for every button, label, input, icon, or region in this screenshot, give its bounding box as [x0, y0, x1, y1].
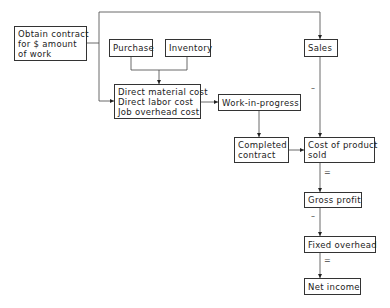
node-inventory: Inventory: [165, 39, 211, 57]
node-text: Gross profit: [308, 195, 358, 205]
node-text: Work-in-progress: [222, 98, 297, 108]
operator-equals-cost: =: [324, 168, 331, 177]
node-text: contract: [238, 150, 285, 160]
node-purchase: Purchase: [109, 39, 153, 57]
node-fixed-overhead: Fixed overhead: [304, 236, 376, 253]
node-text: Completed: [238, 140, 285, 150]
node-net-income: Net income: [304, 278, 361, 295]
node-gross-profit: Gross profit: [304, 192, 362, 208]
node-text: Direct labor cost: [118, 97, 197, 107]
operator-equals-fixed: =: [324, 256, 331, 265]
node-text: Purchase: [113, 43, 149, 53]
node-text: Inventory: [169, 43, 207, 53]
node-sales: Sales: [304, 39, 338, 57]
node-text: Obtain contract: [18, 29, 83, 39]
node-text: Direct material cost: [118, 87, 197, 97]
node-text: sold: [308, 150, 371, 160]
node-text: Sales: [308, 43, 334, 53]
node-text: Cost of product: [308, 140, 371, 150]
node-text: Net income: [308, 282, 357, 292]
node-text: for $ amount: [18, 39, 83, 49]
operator-minus-gross: –: [311, 212, 315, 221]
node-text: of work: [18, 49, 83, 59]
node-text: Fixed overhead: [308, 240, 372, 250]
node-cost-of-product-sold: Cost of product sold: [304, 137, 375, 163]
node-work-in-progress: Work-in-progress: [218, 94, 301, 111]
node-completed-contract: Completed contract: [234, 137, 289, 163]
operator-minus-sales: –: [311, 84, 315, 93]
node-text: Job overhead cost: [118, 107, 197, 117]
node-direct-costs: Direct material cost Direct labor cost J…: [114, 84, 201, 119]
node-obtain-contract: Obtain contract for $ amount of work: [14, 26, 87, 61]
